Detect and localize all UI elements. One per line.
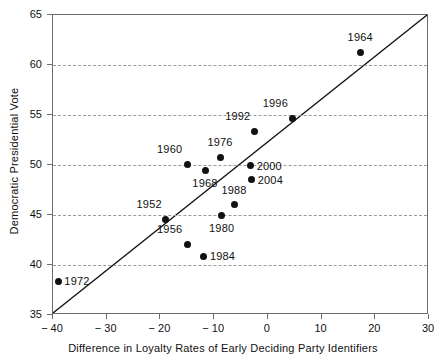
x-tick-label-20: 20: [368, 322, 380, 334]
x-tick-20: [374, 314, 375, 319]
x-axis-title: Difference in Loyalty Rates of Early Dec…: [0, 342, 446, 354]
data-point-label-1956: 1956: [157, 223, 182, 235]
y-tick-label-35: 35: [16, 308, 42, 320]
x-tick--40: [52, 314, 53, 319]
y-tick-40: [47, 264, 52, 265]
gridline-y-50: [53, 165, 427, 166]
scatter-plot-figure: 1952195619601964196819721976198019841988…: [0, 0, 446, 362]
x-tick-label-0: 0: [264, 322, 270, 334]
data-point-label-1968: 1968: [192, 177, 217, 189]
data-point-label-1964: 1964: [348, 31, 373, 43]
x-tick-label--20: − 20: [149, 322, 171, 334]
y-tick-65: [47, 14, 52, 15]
data-point-1996: [289, 115, 296, 122]
y-tick-50: [47, 164, 52, 165]
x-tick--20: [159, 314, 160, 319]
plot-area: 1952195619601964196819721976198019841988…: [52, 14, 428, 314]
y-tick-45: [47, 214, 52, 215]
x-tick-10: [321, 314, 322, 319]
data-point-2000: [247, 162, 254, 169]
y-axis-title: Democratic Presidential Vote: [8, 61, 20, 261]
data-point-1980: [218, 212, 225, 219]
data-point-label-1996: 1996: [263, 97, 288, 109]
x-tick-0: [267, 314, 268, 319]
x-tick-label--10: − 10: [202, 322, 224, 334]
data-point-1956: [184, 241, 191, 248]
data-point-label-1976: 1976: [207, 136, 232, 148]
data-point-1972: [55, 278, 62, 285]
x-tick-label--40: − 40: [41, 322, 63, 334]
data-point-1976: [217, 154, 224, 161]
x-tick-label-30: 30: [422, 322, 434, 334]
reference-diagonal-line: [53, 15, 427, 313]
y-tick-label-65: 65: [16, 8, 42, 20]
data-point-1992: [251, 128, 258, 135]
y-tick-55: [47, 114, 52, 115]
x-tick-30: [428, 314, 429, 319]
x-tick--30: [106, 314, 107, 319]
data-point-label-1960: 1960: [157, 143, 182, 155]
x-tick--10: [213, 314, 214, 319]
data-point-1960: [184, 161, 191, 168]
data-point-label-2004: 2004: [258, 174, 283, 186]
data-point-1968: [202, 167, 209, 174]
y-tick-35: [47, 314, 52, 315]
gridline-y-45: [53, 215, 427, 216]
data-point-1988: [231, 201, 238, 208]
data-point-label-1952: 1952: [137, 198, 162, 210]
data-point-label-2000: 2000: [257, 160, 282, 172]
x-tick-label--30: − 30: [95, 322, 117, 334]
data-point-label-1972: 1972: [64, 275, 89, 287]
data-point-label-1980: 1980: [209, 222, 234, 234]
data-point-2004: [248, 176, 255, 183]
data-point-1964: [357, 49, 364, 56]
data-point-label-1992: 1992: [225, 110, 250, 122]
data-point-label-1984: 1984: [210, 250, 235, 262]
x-tick-label-10: 10: [314, 322, 326, 334]
data-point-1952: [162, 216, 169, 223]
gridline-y-40: [53, 265, 427, 266]
y-tick-60: [47, 64, 52, 65]
data-point-label-1988: 1988: [221, 184, 246, 196]
gridline-y-60: [53, 65, 427, 66]
data-point-1984: [200, 253, 207, 260]
